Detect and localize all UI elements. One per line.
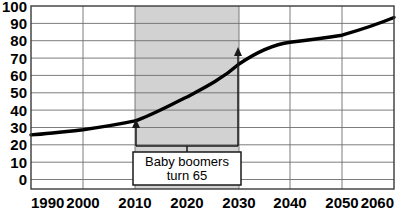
- xtick-label: 2000: [66, 194, 99, 211]
- xtick-label: 2030: [222, 194, 255, 211]
- annotation-line-1: Baby boomers: [145, 154, 229, 169]
- xtick-label: 2060: [361, 194, 394, 211]
- x-axis-tick-labels: 1990 2000 2010 2020 2030 2040 2050 2060: [31, 194, 394, 211]
- xtick-label: 1990: [31, 194, 64, 211]
- xtick-label: 2050: [325, 194, 358, 211]
- ytick-label: 90: [10, 15, 27, 32]
- ytick-label: 10: [10, 154, 27, 171]
- population-projection-line-chart: Baby boomers turn 65 100 90 80 70 60 50 …: [0, 0, 410, 215]
- chart-container: Baby boomers turn 65 100 90 80 70 60 50 …: [0, 0, 410, 215]
- ytick-label: 40: [10, 102, 27, 119]
- xtick-label: 2020: [170, 194, 203, 211]
- ytick-label: 60: [10, 67, 27, 84]
- annotation-label-box: Baby boomers turn 65: [133, 152, 241, 185]
- ytick-label: 0: [19, 171, 27, 188]
- annotation-line-2: turn 65: [167, 168, 207, 183]
- xtick-label: 2040: [273, 194, 306, 211]
- ytick-label: 20: [10, 136, 27, 153]
- xtick-label: 2010: [118, 194, 151, 211]
- y-axis-tick-labels: 100 90 80 70 60 50 40 30 20 10 0: [2, 0, 27, 188]
- ytick-label: 70: [10, 50, 27, 67]
- ytick-label: 100: [2, 0, 27, 15]
- ytick-label: 50: [10, 84, 27, 101]
- ytick-label: 30: [10, 119, 27, 136]
- ytick-label: 80: [10, 32, 27, 49]
